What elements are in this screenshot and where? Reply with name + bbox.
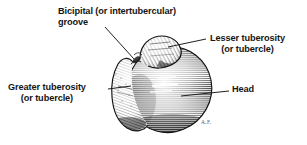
greater-tuberosity-label-line2: (or tubercle) — [8, 93, 86, 104]
lesser-tuberosity-label-line1: Lesser tuberosity — [210, 33, 285, 44]
head-label-line1: Head — [232, 84, 254, 95]
bicipital-groove-label-line2: groove — [58, 17, 176, 28]
greater-tuberosity-label-line1: Greater tuberosity — [8, 82, 86, 93]
lesser-tuberosity-label-line2: (or tubercle) — [210, 44, 285, 55]
leader-line-bicipital — [105, 27, 134, 59]
greater-tuberosity-label: Greater tuberosity (or tubercle) — [8, 82, 86, 104]
head-label: Head — [232, 84, 254, 95]
lesser-tuberosity-label: Lesser tuberosity (or tubercle) — [210, 33, 285, 55]
bicipital-groove-label-line1: Bicipital (or intertubercular) — [58, 6, 176, 17]
artist-signature: A.F. — [201, 119, 212, 125]
bicipital-groove-label: Bicipital (or intertubercular) groove — [58, 6, 176, 28]
